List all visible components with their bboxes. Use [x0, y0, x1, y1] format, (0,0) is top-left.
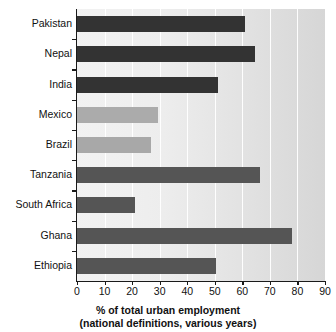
bar — [77, 258, 216, 274]
bar — [77, 46, 255, 62]
x-axis-tick-label: 50 — [203, 286, 227, 297]
x-axis-tick-label: 40 — [175, 286, 199, 297]
gridline — [297, 9, 298, 281]
bar — [77, 77, 218, 93]
category-label: Brazil — [46, 139, 72, 150]
y-axis-tick — [72, 100, 76, 101]
x-axis-tick-label: 90 — [313, 286, 336, 297]
x-axis-caption: % of total urban employment (national de… — [0, 304, 336, 330]
x-axis-caption-line2: (national definitions, various years) — [0, 317, 336, 330]
category-label: Mexico — [39, 109, 72, 120]
bar — [77, 16, 245, 32]
x-axis-tick-label: 10 — [93, 286, 117, 297]
y-axis-tick — [72, 190, 76, 191]
bar — [77, 107, 158, 123]
category-label: Nepal — [45, 48, 72, 59]
category-label: Ghana — [40, 230, 72, 241]
y-axis-tick — [72, 69, 76, 70]
category-label: Pakistan — [32, 18, 72, 29]
y-axis-tick — [72, 160, 76, 161]
x-axis-tick-label: 70 — [258, 286, 282, 297]
bar — [77, 228, 292, 244]
x-axis-line — [76, 281, 326, 282]
bar-chart: % of total urban employment (national de… — [0, 0, 336, 332]
x-axis-tick-label: 80 — [285, 286, 309, 297]
category-label: Ethiopia — [34, 260, 72, 271]
x-axis-tick-label: 30 — [148, 286, 172, 297]
y-axis-tick — [72, 221, 76, 222]
bar — [77, 167, 260, 183]
y-axis-tick — [72, 39, 76, 40]
x-axis-caption-line1: % of total urban employment — [0, 304, 336, 317]
y-axis-tick — [72, 251, 76, 252]
category-label: India — [49, 79, 72, 90]
x-axis-tick-label: 20 — [120, 286, 144, 297]
category-label: Tanzania — [30, 169, 72, 180]
bar — [77, 197, 135, 213]
bar — [77, 137, 151, 153]
y-axis-tick — [72, 130, 76, 131]
x-axis-tick-label: 0 — [65, 286, 89, 297]
category-label: South Africa — [15, 199, 72, 210]
x-axis-tick-label: 60 — [230, 286, 254, 297]
